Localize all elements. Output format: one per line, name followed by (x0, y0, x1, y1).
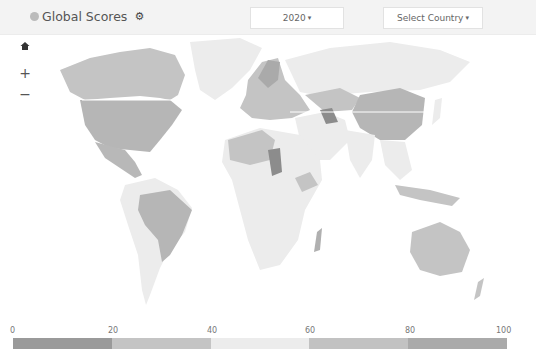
country-dropdown[interactable]: Select Country ▾ (383, 7, 483, 29)
country-value: Select Country (397, 13, 463, 23)
legend-tick: 20 (108, 326, 118, 335)
legend-bar (13, 338, 507, 349)
legend-segment-40-60 (211, 338, 310, 349)
legend-tick: 80 (405, 326, 415, 335)
region-se-asia (380, 140, 412, 180)
world-map[interactable] (0, 34, 536, 314)
legend-tick: 0 (10, 326, 15, 335)
chevron-down-icon: ▾ (308, 14, 312, 22)
year-value: 2020 (283, 13, 306, 23)
region-north-africa (228, 130, 275, 165)
legend-tick: 60 (305, 326, 315, 335)
title-text: Global Scores (42, 9, 127, 24)
legend-segment-60-80 (309, 338, 408, 349)
legend-tick: 40 (207, 326, 217, 335)
region-usa (80, 100, 182, 152)
region-new-zealand (474, 278, 484, 300)
legend-segment-0-20 (13, 338, 112, 349)
region-madagascar (314, 228, 322, 252)
legend-segment-80-100 (408, 338, 507, 349)
region-australia (410, 222, 470, 276)
gear-icon[interactable]: ⚙ (134, 10, 144, 23)
legend-segment-20-40 (112, 338, 211, 349)
chevron-down-icon: ▾ (465, 14, 469, 22)
region-indonesia (395, 185, 460, 206)
header-bar: Global Scores ⚙ 2020 ▾ Select Country ▾ (0, 0, 536, 35)
region-russia (285, 42, 470, 96)
region-japan (432, 98, 442, 125)
legend-tick: 100 (496, 326, 511, 335)
globe-icon (30, 12, 39, 21)
year-dropdown[interactable]: 2020 ▾ (250, 7, 344, 29)
region-india (345, 130, 375, 178)
app-title: Global Scores ⚙ (30, 9, 144, 24)
region-china (352, 88, 425, 140)
region-canada (60, 48, 185, 100)
